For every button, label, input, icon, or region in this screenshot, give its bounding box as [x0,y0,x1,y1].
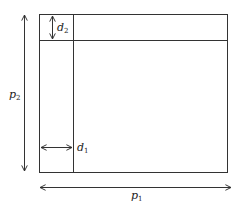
p2-label: p2 [9,88,21,102]
d1-label: d1 [77,141,89,155]
outer-rectangle [40,15,228,173]
dimension-diagram: d2 d1 p2 p1 [0,0,241,211]
d2-label: d2 [57,21,69,35]
p1-label: p1 [131,189,143,203]
